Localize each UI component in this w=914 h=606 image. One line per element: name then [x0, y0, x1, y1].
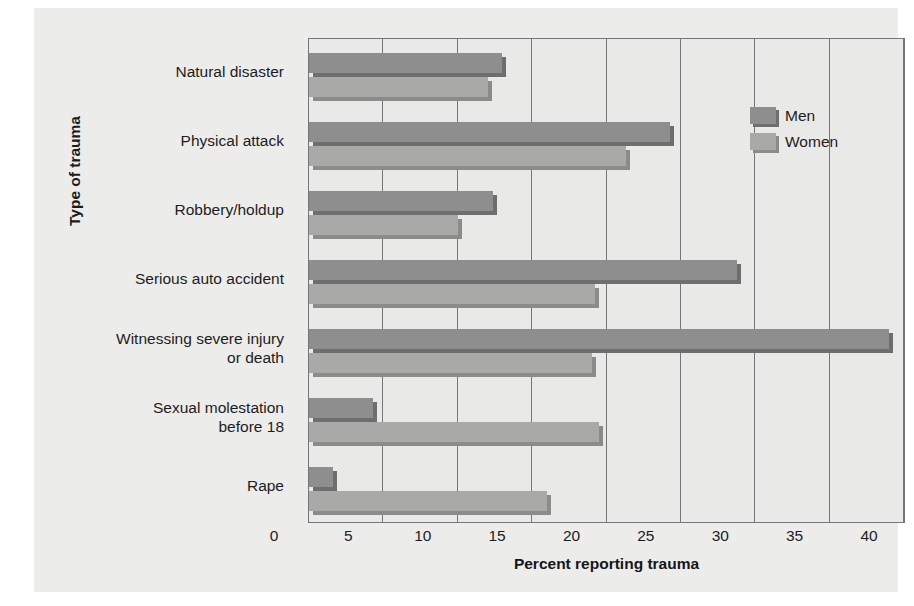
category-label-line: before 18 — [54, 417, 284, 436]
legend: Men Women — [750, 102, 838, 154]
category-label-4: Witnessing severe injuryor death — [54, 329, 284, 367]
category-label-2: Robbery/holdup — [54, 200, 284, 219]
category-label-line: Witnessing severe injury — [54, 329, 284, 348]
x-tick-40: 40 — [860, 527, 877, 545]
x-tick-20: 20 — [563, 527, 580, 545]
category-label-line: Robbery/holdup — [54, 200, 284, 219]
category-label-line: Rape — [54, 476, 284, 495]
category-label-line: Sexual molestation — [54, 398, 284, 417]
legend-swatch-men-icon — [750, 107, 776, 124]
category-label-line: or death — [54, 348, 284, 367]
bar-women-2 — [309, 215, 458, 235]
bar-men-2 — [309, 191, 493, 211]
gridline — [903, 39, 904, 522]
category-label-line: Physical attack — [54, 131, 284, 150]
bar-men-6 — [309, 467, 333, 487]
legend-item-women: Women — [750, 128, 838, 154]
bar-women-6 — [309, 491, 547, 511]
legend-swatch-women-icon — [750, 133, 776, 150]
category-label-5: Sexual molestationbefore 18 — [54, 398, 284, 436]
category-label-line: Natural disaster — [54, 62, 284, 81]
x-tick-30: 30 — [712, 527, 729, 545]
figure-canvas: Type of trauma Natural disasterPhysical … — [0, 0, 914, 606]
x-axis-title: Percent reporting trauma — [308, 555, 905, 573]
legend-label-men: Men — [785, 107, 815, 124]
bar-men-5 — [309, 398, 373, 418]
bar-men-3 — [309, 260, 737, 280]
category-label-0: Natural disaster — [54, 62, 284, 81]
category-label-3: Serious auto accident — [54, 269, 284, 288]
x-tick-5: 5 — [344, 527, 353, 545]
category-label-6: Rape — [54, 476, 284, 495]
bar-women-0 — [309, 77, 488, 97]
legend-label-women: Women — [785, 133, 838, 150]
legend-item-men: Men — [750, 102, 838, 128]
bar-men-4 — [309, 329, 889, 349]
bar-men-0 — [309, 53, 502, 73]
x-tick-25: 25 — [637, 527, 654, 545]
category-label-1: Physical attack — [54, 131, 284, 150]
bar-women-1 — [309, 146, 626, 166]
bar-women-3 — [309, 284, 595, 304]
category-label-line: Serious auto accident — [54, 269, 284, 288]
bar-women-5 — [309, 422, 599, 442]
x-tick-35: 35 — [786, 527, 803, 545]
x-tick-10: 10 — [414, 527, 431, 545]
chart-panel: Type of trauma Natural disasterPhysical … — [34, 8, 898, 592]
bar-men-1 — [309, 122, 670, 142]
x-tick-0: 0 — [270, 527, 279, 545]
bar-women-4 — [309, 353, 592, 373]
x-tick-15: 15 — [489, 527, 506, 545]
